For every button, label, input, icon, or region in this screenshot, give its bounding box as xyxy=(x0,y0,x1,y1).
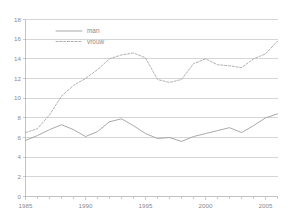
chart-canvas: 024681012141618 19851990199520002005 man… xyxy=(0,0,288,219)
y-tick-label: 12 xyxy=(14,75,21,82)
y-tick-label: 18 xyxy=(14,16,21,23)
line-chart: 024681012141618 19851990199520002005 man… xyxy=(0,0,288,219)
y-tick-label: 2 xyxy=(18,173,22,180)
x-tick-label: 2000 xyxy=(199,202,213,209)
y-tick-label: 14 xyxy=(14,55,21,62)
y-tick-label: 10 xyxy=(14,94,21,101)
y-tick-label: 4 xyxy=(18,153,22,160)
data-series xyxy=(26,41,278,141)
y-tick-label: 0 xyxy=(18,193,22,200)
legend-label-vrouw: vrouw xyxy=(87,38,104,45)
x-tick-label: 2005 xyxy=(259,202,273,209)
gridlines xyxy=(26,20,278,177)
y-axis xyxy=(23,20,26,197)
legend-label-man: man xyxy=(87,27,100,34)
x-axis-tick-labels: 19851990199520002005 xyxy=(19,202,273,209)
legend: manvrouw xyxy=(56,27,104,45)
x-tick-label: 1990 xyxy=(79,202,93,209)
x-tick-label: 1985 xyxy=(19,202,33,209)
x-tick-label: 1995 xyxy=(139,202,153,209)
y-tick-label: 6 xyxy=(18,134,22,141)
y-axis-tick-labels: 024681012141618 xyxy=(14,16,21,200)
x-axis-tickmarks xyxy=(26,197,278,201)
series-line-vrouw xyxy=(26,41,278,132)
y-tick-label: 8 xyxy=(18,114,22,121)
y-tick-label: 16 xyxy=(14,35,21,42)
